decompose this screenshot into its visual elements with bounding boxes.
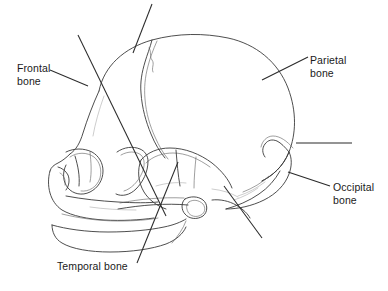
orbital-suture <box>75 156 79 186</box>
frontal-bone-outline <box>70 91 99 154</box>
temporal-squama-inner <box>146 153 210 167</box>
label-occipital-line1: Occipital <box>333 181 374 194</box>
lambdoid-suture-inner <box>261 136 293 148</box>
label-temporal-line1: Temporal bone <box>57 260 128 273</box>
orbit-inner-rim <box>70 153 101 191</box>
mastoid-leader-line <box>224 186 262 238</box>
occipital-shading-2 <box>234 188 258 200</box>
frontal-leader-line <box>50 70 88 86</box>
frontal-process-outline <box>50 154 70 171</box>
temporal-suture-b <box>194 157 196 188</box>
occipital-leader-line <box>288 172 330 186</box>
label-temporal-bone: Temporal bone <box>57 260 128 273</box>
external-acoustic-meatus-inner <box>187 200 205 216</box>
temporal-shading-2 <box>212 189 238 197</box>
orbit-outline <box>64 149 103 194</box>
coronal-suture <box>141 40 165 158</box>
label-parietal-bone: Parietal bone <box>310 54 346 79</box>
lacrimal-bone <box>60 173 65 185</box>
label-frontal-bone: Frontal bone <box>17 62 50 87</box>
temporal-squama <box>141 148 232 188</box>
label-occipital-line2: bone <box>333 194 374 207</box>
lambdoid-suture <box>263 140 289 157</box>
temporal-leader-line <box>137 162 178 263</box>
coronal-suture-inner <box>145 41 168 159</box>
label-frontal-line2: bone <box>17 75 50 88</box>
coronal-suture-leader-line <box>133 4 152 53</box>
orbital-suture-2 <box>90 152 91 182</box>
skull-drawing <box>0 0 388 291</box>
label-frontal-line1: Frontal <box>17 62 50 75</box>
occipital-shading-1 <box>238 182 265 196</box>
label-parietal-line2: bone <box>310 67 346 80</box>
skull-anatomy-figure: Frontal bone Parietal bone Occipital bon… <box>0 0 388 291</box>
sphenoid-greater-wing <box>116 147 148 195</box>
parietal-leader-line <box>262 57 308 80</box>
temporal-shading-1 <box>156 183 186 186</box>
label-parietal-line1: Parietal <box>310 54 346 67</box>
occipital-bone-outline <box>226 152 291 209</box>
zygomatic-arch-lower <box>118 204 188 209</box>
label-occipital-bone: Occipital bone <box>333 181 374 206</box>
temporal-suture-a <box>176 150 180 186</box>
